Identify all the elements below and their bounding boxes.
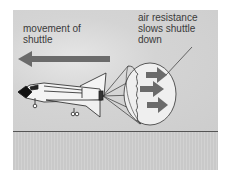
movement-label-line2: shuttle (23, 34, 113, 45)
air-resistance-label: air resistance slows shuttle down (138, 12, 218, 45)
air-label-line3: down (138, 34, 218, 45)
movement-label-line1: movement of (23, 23, 113, 34)
movement-label: movement of shuttle (23, 23, 113, 45)
air-label-line1: air resistance (138, 12, 218, 23)
parachute-icon (103, 63, 176, 125)
movement-arrow-icon (18, 51, 110, 67)
air-label-line2: slows shuttle (138, 23, 218, 34)
label-pointer-line (166, 47, 192, 75)
space-shuttle-icon (18, 73, 106, 117)
